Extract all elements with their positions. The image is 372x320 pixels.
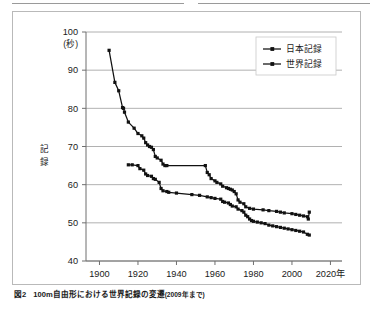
series-0-marker-36 bbox=[256, 220, 259, 223]
series-1-marker-18 bbox=[159, 159, 162, 162]
x-tick-label-2020: 2020年 bbox=[316, 268, 345, 279]
series-1-marker-53 bbox=[308, 211, 311, 214]
series-1-marker-7 bbox=[133, 127, 136, 130]
legend-label-0: 日本記録 bbox=[286, 43, 322, 54]
series-1-marker-44 bbox=[275, 210, 278, 213]
x-tick-label-2000: 2000 bbox=[282, 269, 302, 279]
series-1-marker-29 bbox=[221, 185, 224, 188]
y-tick-label-80: 80 bbox=[68, 104, 78, 114]
x-tick-label-1960: 1960 bbox=[205, 269, 225, 279]
series-0-marker-47 bbox=[298, 230, 301, 233]
series-0-marker-41 bbox=[275, 225, 278, 228]
series-0-marker-4 bbox=[142, 169, 145, 172]
series-1-marker-21 bbox=[165, 164, 168, 167]
figure-caption: 図2100m自由形における世界記録の変遷(2009年まで) bbox=[14, 289, 360, 300]
figure-caption-note: (2009年まで) bbox=[165, 291, 205, 298]
series-1-marker-45 bbox=[279, 211, 282, 214]
series-0-marker-40 bbox=[271, 224, 274, 227]
series-0-marker-44 bbox=[287, 227, 290, 230]
series-0-marker-10 bbox=[158, 181, 161, 184]
record-progression-line-chart: 405060708090100(秒)記録19001920194019601980… bbox=[13, 12, 362, 286]
series-0-marker-26 bbox=[231, 204, 234, 207]
series-1-marker-5 bbox=[123, 111, 126, 114]
series-1-marker-4 bbox=[122, 107, 125, 110]
series-0-marker-28 bbox=[236, 207, 239, 210]
series-1-marker-38 bbox=[242, 202, 245, 205]
series-0-marker-17 bbox=[198, 194, 201, 197]
series-1-marker-35 bbox=[235, 192, 238, 195]
y-axis-unit: (秒) bbox=[63, 38, 78, 49]
series-line-0 bbox=[128, 165, 309, 235]
series-1-marker-27 bbox=[215, 181, 218, 184]
figure-caption-text: 100m自由形における世界記録の変遷 bbox=[33, 290, 164, 299]
series-1-marker-8 bbox=[136, 132, 139, 135]
series-1-marker-41 bbox=[252, 207, 255, 210]
chart-plot-area: 405060708090100(秒)記録19001920194019601980… bbox=[13, 12, 362, 286]
series-1-marker-37 bbox=[238, 201, 241, 204]
y-axis-title-char-0: 記 bbox=[40, 143, 49, 154]
legend-marker-0 bbox=[270, 47, 274, 51]
series-1-marker-46 bbox=[283, 211, 286, 214]
figure-caption-number: 図2 bbox=[14, 290, 26, 299]
legend-label-1: 世界記録 bbox=[286, 58, 322, 69]
series-0-marker-23 bbox=[223, 201, 226, 204]
series-1-marker-0 bbox=[107, 49, 110, 52]
series-1-marker-6 bbox=[127, 120, 130, 123]
series-1-marker-22 bbox=[204, 164, 207, 167]
x-tick-label-1900: 1900 bbox=[89, 269, 109, 279]
y-tick-label-40: 40 bbox=[68, 256, 78, 266]
y-axis-title-char-1: 録 bbox=[40, 156, 49, 167]
series-1-marker-42 bbox=[261, 208, 264, 211]
y-tick-label-50: 50 bbox=[68, 218, 78, 228]
y-tick-label-60: 60 bbox=[68, 180, 78, 190]
series-1-marker-43 bbox=[267, 209, 270, 212]
series-0-marker-48 bbox=[302, 230, 305, 233]
series-0-marker-20 bbox=[213, 197, 216, 200]
series-1-marker-25 bbox=[210, 177, 213, 180]
figure-box: 405060708090100(秒)記録19001920194019601980… bbox=[12, 11, 361, 285]
y-tick-label-100: 100 bbox=[63, 27, 78, 37]
series-1-marker-40 bbox=[248, 207, 251, 210]
series-1-marker-10 bbox=[142, 137, 145, 140]
y-tick-label-70: 70 bbox=[68, 142, 78, 152]
page-rule-right bbox=[198, 3, 370, 4]
series-1-marker-15 bbox=[152, 148, 155, 151]
series-1-marker-50 bbox=[302, 214, 305, 217]
series-0-marker-46 bbox=[294, 229, 297, 232]
series-1-marker-24 bbox=[208, 173, 211, 176]
series-0-marker-45 bbox=[290, 228, 293, 231]
series-0-marker-43 bbox=[283, 227, 286, 230]
series-0-marker-2 bbox=[136, 164, 139, 167]
series-1-marker-49 bbox=[298, 214, 301, 217]
series-0-marker-6 bbox=[146, 174, 149, 177]
series-0-marker-35 bbox=[252, 220, 255, 223]
y-tick-label-90: 90 bbox=[68, 65, 78, 75]
series-0-marker-50 bbox=[308, 233, 311, 236]
series-1-marker-2 bbox=[117, 89, 120, 92]
page-rule-left bbox=[12, 3, 184, 4]
series-0-marker-30 bbox=[242, 211, 245, 214]
series-0-marker-9 bbox=[154, 178, 157, 181]
series-1-marker-17 bbox=[156, 156, 159, 159]
series-0-marker-0 bbox=[127, 163, 130, 166]
series-0-marker-3 bbox=[138, 167, 141, 170]
series-0-marker-12 bbox=[161, 189, 164, 192]
series-0-marker-16 bbox=[190, 193, 193, 196]
series-1-marker-48 bbox=[294, 213, 297, 216]
series-1-marker-1 bbox=[113, 81, 116, 84]
series-0-marker-18 bbox=[206, 195, 209, 198]
series-0-marker-37 bbox=[260, 221, 263, 224]
series-0-marker-1 bbox=[131, 163, 134, 166]
x-tick-label-1980: 1980 bbox=[243, 269, 263, 279]
x-tick-label-1940: 1940 bbox=[166, 269, 186, 279]
legend-marker-1 bbox=[270, 62, 274, 66]
series-0-marker-15 bbox=[175, 191, 178, 194]
x-tick-label-1920: 1920 bbox=[128, 269, 148, 279]
series-0-marker-38 bbox=[263, 222, 266, 225]
series-0-marker-42 bbox=[279, 226, 282, 229]
series-0-marker-39 bbox=[267, 224, 270, 227]
series-0-marker-14 bbox=[167, 191, 170, 194]
series-1-marker-47 bbox=[290, 212, 293, 215]
series-0-marker-19 bbox=[210, 196, 213, 199]
series-1-marker-52 bbox=[307, 217, 310, 220]
